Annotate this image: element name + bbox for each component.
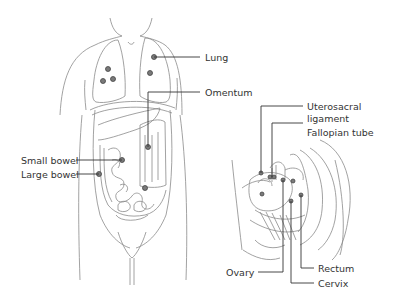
- label-cervix: Cervix: [318, 278, 348, 289]
- lung-dot: [148, 71, 153, 76]
- fallopian-tube-dot: [268, 175, 272, 179]
- bowel-dot: [143, 186, 148, 191]
- label-rectum: Rectum: [318, 263, 354, 274]
- ovary-region-dot: [260, 192, 264, 196]
- label-ligament: ligament: [307, 113, 349, 124]
- label-omentum: Omentum: [205, 87, 253, 98]
- label-lung: Lung: [205, 52, 228, 63]
- label-ovary: Ovary: [226, 267, 254, 278]
- pelvis-markers: [259, 171, 303, 203]
- anatomy-diagram: [0, 0, 395, 301]
- label-fallopian-tube: Fallopian tube: [307, 127, 374, 138]
- pelvis-leaders: [258, 106, 314, 283]
- label-uterosacral: Uterosacral: [307, 101, 361, 112]
- fallopian-tube-dot: [272, 175, 276, 179]
- lung-dot: [111, 77, 116, 82]
- label-large-bowel: Large bowel: [21, 169, 79, 180]
- label-small-bowel: Small bowel: [21, 155, 79, 166]
- torso-figure: [60, 18, 187, 285]
- lung-dot: [101, 79, 106, 84]
- uterus-dot: [291, 179, 295, 183]
- lung-dot: [106, 67, 111, 72]
